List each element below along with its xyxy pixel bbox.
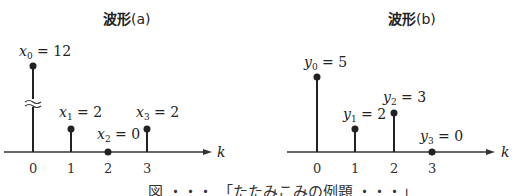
svg-text:x2 = 0: x2 = 0 bbox=[97, 126, 140, 144]
svg-text:2: 2 bbox=[104, 161, 112, 176]
svg-text:3: 3 bbox=[143, 161, 151, 176]
svg-text:3: 3 bbox=[428, 161, 436, 176]
svg-text:2: 2 bbox=[390, 161, 398, 176]
figure-caption: 図 ・・・ 「たたみこみの例題 ・・・」 bbox=[148, 180, 417, 196]
svg-text:x0 = 12: x0 = 12 bbox=[19, 43, 71, 61]
axis-label-k: k bbox=[217, 144, 225, 160]
svg-text:y0 = 5: y0 = 5 bbox=[303, 54, 347, 72]
stem-plots: k x0 = 12 x1 = 2 x2 = 0 x3 = 2 0 1 2 3 k bbox=[0, 0, 513, 196]
chart-b: k y0 = 5 y1 = 2 y2 = 3 y3 = 0 0 1 2 3 bbox=[287, 54, 509, 176]
svg-text:0: 0 bbox=[29, 161, 37, 176]
svg-text:y1 = 2: y1 = 2 bbox=[342, 106, 386, 124]
axis-label-k: k bbox=[501, 144, 509, 160]
svg-text:x3 = 2: x3 = 2 bbox=[136, 104, 179, 122]
arrow-icon bbox=[486, 149, 495, 155]
svg-text:1: 1 bbox=[67, 161, 75, 176]
svg-text:y2 = 3: y2 = 3 bbox=[382, 89, 426, 107]
svg-text:y3 = 0: y3 = 0 bbox=[419, 128, 463, 146]
svg-text:0: 0 bbox=[313, 161, 321, 176]
arrow-icon bbox=[203, 149, 212, 155]
chart-a: k x0 = 12 x1 = 2 x2 = 0 x3 = 2 0 1 2 3 bbox=[4, 43, 225, 176]
svg-text:1: 1 bbox=[351, 161, 359, 176]
svg-text:x1 = 2: x1 = 2 bbox=[59, 104, 102, 122]
